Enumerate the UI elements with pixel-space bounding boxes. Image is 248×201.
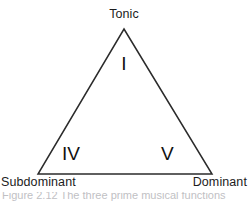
triangle-shape: [0, 0, 248, 201]
vertex-label-subdominant: Subdominant: [1, 176, 76, 189]
roman-numeral-tonic: I: [0, 54, 248, 73]
harmonic-function-triangle-figure: Tonic Subdominant Dominant I IV V Figure…: [0, 0, 248, 201]
figure-caption-clipped: Figure 2.12 The three prime musical func…: [0, 192, 248, 201]
vertex-label-tonic: Tonic: [0, 8, 248, 21]
roman-numeral-subdominant: IV: [62, 144, 80, 163]
figure-caption-text: Figure 2.12 The three prime musical func…: [2, 192, 226, 201]
roman-numeral-dominant: V: [161, 144, 174, 163]
vertex-label-dominant: Dominant: [193, 176, 247, 189]
